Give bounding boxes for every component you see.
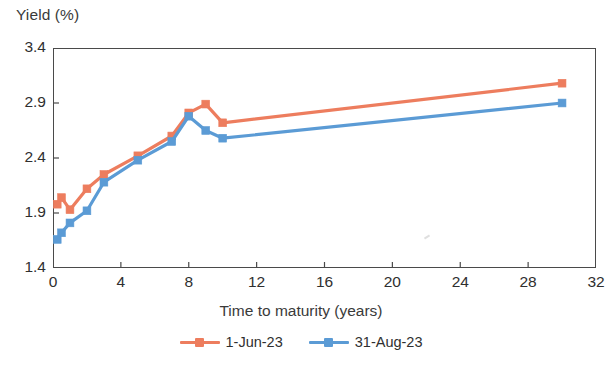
x-axis-tick-labels: 048121620242832 <box>0 273 602 297</box>
data-point-marker <box>83 185 91 193</box>
data-point-marker <box>185 112 193 120</box>
data-point-marker <box>558 79 566 87</box>
series-line <box>57 103 562 239</box>
data-point-marker <box>66 206 74 214</box>
data-point-marker <box>202 127 210 135</box>
series-1 <box>53 79 566 213</box>
x-tick-label: 24 <box>440 273 480 291</box>
x-tick-label: 4 <box>101 273 141 291</box>
data-point-marker <box>134 156 142 164</box>
data-point-marker <box>100 171 108 179</box>
data-point-marker <box>558 99 566 107</box>
data-point-marker <box>66 219 74 227</box>
y-tick-label: 2.9 <box>2 93 46 111</box>
legend-swatch-icon <box>309 336 349 348</box>
y-tick-label: 3.4 <box>2 38 46 56</box>
series-2 <box>53 99 566 243</box>
data-point-marker <box>219 119 227 127</box>
series-line <box>57 83 562 210</box>
data-point-marker <box>202 100 210 108</box>
data-point-marker <box>58 194 66 202</box>
x-tick-label: 0 <box>33 273 73 291</box>
data-point-marker <box>100 178 108 186</box>
chart-legend: 1-Jun-2331-Aug-23 <box>0 334 602 350</box>
data-point-marker <box>58 229 66 237</box>
legend-label: 1-Jun-23 <box>226 334 283 350</box>
legend-marker <box>195 338 204 347</box>
legend-label: 31-Aug-23 <box>355 334 423 350</box>
plot-series-layer <box>53 48 596 268</box>
legend-entry[interactable]: 31-Aug-23 <box>309 334 423 350</box>
x-tick-label: 20 <box>372 273 412 291</box>
data-point-marker <box>83 207 91 215</box>
x-tick-label: 8 <box>169 273 209 291</box>
y-tick-label: 1.9 <box>2 203 46 221</box>
data-point-marker <box>168 138 176 146</box>
x-tick-label: 32 <box>576 273 609 291</box>
legend-swatch-icon <box>180 336 220 348</box>
x-axis-title: Time to maturity (years) <box>0 302 602 320</box>
data-point-marker <box>219 134 227 142</box>
legend-entry[interactable]: 1-Jun-23 <box>180 334 283 350</box>
x-tick-label: 12 <box>237 273 277 291</box>
legend-marker <box>324 338 333 347</box>
y-tick-label: 2.4 <box>2 148 46 166</box>
x-tick-label: 28 <box>508 273 548 291</box>
x-tick-label: 16 <box>305 273 345 291</box>
